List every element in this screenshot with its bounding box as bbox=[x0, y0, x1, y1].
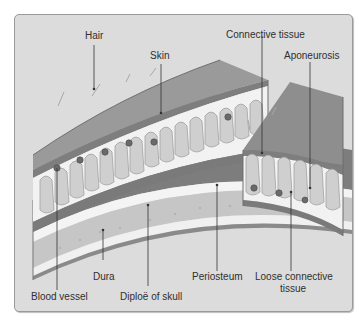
label-loose-connective-tissue: Loose connective tissue bbox=[255, 271, 331, 295]
label-aponeurosis: Aponeurosis bbox=[284, 50, 340, 62]
label-periosteum: Periosteum bbox=[192, 271, 243, 283]
label-connective-tissue: Connective tissue bbox=[226, 29, 305, 41]
label-hair: Hair bbox=[85, 30, 103, 42]
label-loose-line2: tissue bbox=[255, 283, 331, 295]
label-skin: Skin bbox=[150, 50, 169, 62]
label-blood-vessel: Blood vessel bbox=[31, 291, 88, 303]
label-dura: Dura bbox=[93, 271, 115, 283]
label-diploe: Diploë of skull bbox=[120, 291, 182, 303]
label-loose-line1: Loose connective bbox=[255, 271, 331, 283]
